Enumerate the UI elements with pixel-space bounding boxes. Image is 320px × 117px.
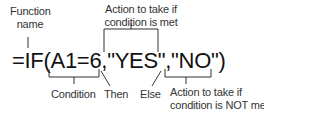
then-label: Then <box>104 88 128 101</box>
action-not-met-label-line2: condition is NOT met <box>170 99 264 112</box>
action-not-met-label: Action to take if condition is NOT met <box>170 86 264 112</box>
condition-label: Condition <box>51 88 96 101</box>
else-label: Else <box>140 88 161 101</box>
action-not-met-label-line1: Action to take if <box>170 86 264 99</box>
